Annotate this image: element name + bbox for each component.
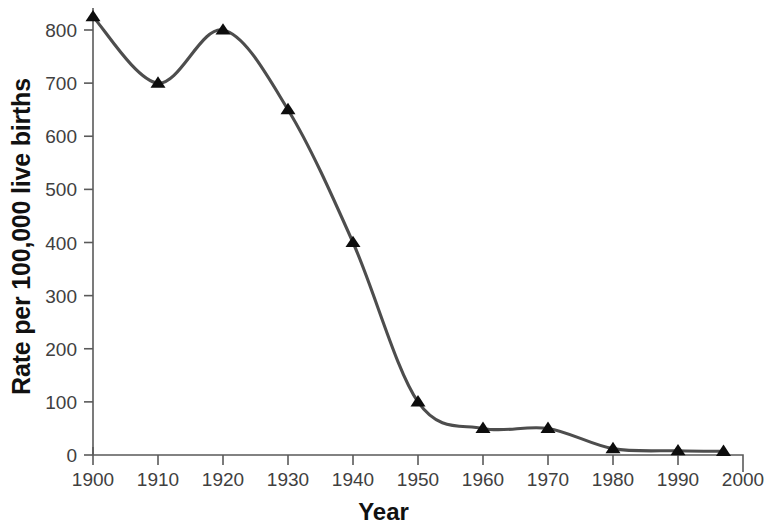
y-tick-label: 600 (45, 126, 77, 147)
y-tick-label: 200 (45, 339, 77, 360)
x-tick-label: 1920 (202, 469, 244, 490)
y-tick-label: 0 (66, 445, 77, 466)
y-tick-label: 800 (45, 20, 77, 41)
x-tick-label: 1910 (137, 469, 179, 490)
y-tick-label: 400 (45, 233, 77, 254)
x-tick-label: 1980 (592, 469, 634, 490)
data-point-marker: 1900: 825 (86, 10, 101, 21)
x-tick-label: 1930 (267, 469, 309, 490)
y-tick-label: 300 (45, 286, 77, 307)
y-tick-label: 500 (45, 179, 77, 200)
data-point-markers: 1900: 8251910: 7001920: 8001930: 6501940… (86, 10, 732, 456)
data-point-marker: 1930: 650 (281, 103, 296, 114)
x-tick-label: 1940 (332, 469, 374, 490)
x-axis-title: Year (0, 498, 767, 526)
data-series-line (93, 17, 724, 452)
x-tick-label: 1990 (657, 469, 699, 490)
x-tick-label: 2000 (722, 469, 764, 490)
data-point-marker: 1950: 100 (411, 395, 426, 406)
y-tick-label: 700 (45, 73, 77, 94)
y-tick-label: 100 (45, 392, 77, 413)
y-axis-tick-group: 0100200300400500600700800 (45, 20, 93, 466)
x-tick-label: 1900 (72, 469, 114, 490)
data-point-marker: 1940: 400 (346, 236, 361, 247)
chart-container: 0100200300400500600700800 19001910192019… (0, 0, 767, 530)
x-tick-label: 1950 (397, 469, 439, 490)
line-chart-plot: 0100200300400500600700800 19001910192019… (0, 0, 767, 530)
x-tick-label: 1970 (527, 469, 569, 490)
y-axis-title: Rate per 100,000 live births (7, 7, 36, 467)
x-axis-tick-group: 1900191019201930194019501960197019801990… (72, 447, 764, 490)
x-tick-label: 1960 (462, 469, 504, 490)
